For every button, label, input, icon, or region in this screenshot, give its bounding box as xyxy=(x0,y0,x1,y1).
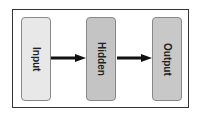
node-input-label: Input xyxy=(31,47,42,71)
node-output: Output xyxy=(152,17,182,101)
node-output-label: Output xyxy=(162,43,173,76)
node-hidden: Hidden xyxy=(86,17,116,101)
arrow-right-icon xyxy=(51,54,86,62)
node-hidden-label: Hidden xyxy=(96,42,107,76)
node-input: Input xyxy=(21,17,51,101)
arrow-right-icon xyxy=(117,54,152,62)
